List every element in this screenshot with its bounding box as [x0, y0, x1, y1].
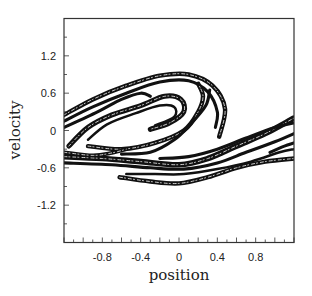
y-tick-label: -1.2 — [37, 199, 56, 211]
x-tick-label: -0.4 — [131, 251, 150, 263]
x-tick-label: -0.8 — [93, 251, 112, 263]
y-tick-label: -0.6 — [37, 162, 56, 174]
x-tick-label: 0.4 — [210, 251, 225, 263]
x-tick-label: 0.8 — [248, 251, 263, 263]
y-tick-label: 1.2 — [41, 50, 56, 62]
attractor-bands — [64, 74, 294, 184]
upper-band-3 — [64, 93, 150, 127]
y-axis-title: velocity — [6, 100, 24, 160]
y-tick-label: 0.6 — [41, 87, 56, 99]
x-axis-ticks: -0.8-0.400.40.8 — [64, 238, 294, 263]
x-tick-label: 0 — [176, 251, 182, 263]
phase-space-chart: -0.8-0.400.40.8 1.20.60-0.6-1.2 position… — [0, 0, 312, 296]
y-tick-label: 0 — [50, 125, 56, 137]
left-bundle — [64, 149, 126, 155]
x-axis-title: position — [149, 266, 210, 284]
